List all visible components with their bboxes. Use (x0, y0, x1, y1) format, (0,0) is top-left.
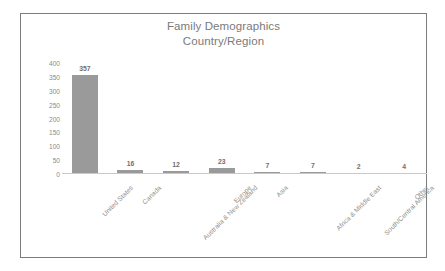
bar-value-label: 357 (79, 65, 90, 73)
bar-value-label: 4 (402, 163, 406, 171)
y-axis-tick: 300 (41, 87, 60, 94)
plot-area: 3571612237724 (62, 63, 427, 174)
bar-slot: 4 (381, 63, 427, 174)
y-axis-tick: 0 (41, 171, 60, 178)
x-axis-category-labels: United StatesCanadaAustralia & New Zeala… (62, 176, 427, 256)
bar-value-label: 16 (127, 160, 135, 168)
chart-subtitle: Country/Region (21, 34, 426, 49)
bar-value-label: 2 (357, 163, 361, 171)
y-axis-tick: 400 (41, 60, 60, 67)
y-axis-tick: 250 (41, 101, 60, 108)
x-axis-category: Asia (271, 176, 284, 194)
x-axis-category-label: Asia (275, 184, 290, 199)
bar-series: 3571612237724 (62, 63, 427, 174)
chart-title: Family Demographics (21, 19, 426, 34)
bar-slot: 357 (62, 63, 108, 174)
bar-value-label: 7 (311, 162, 315, 170)
x-axis-line (62, 173, 427, 174)
y-axis-tick: 100 (41, 143, 60, 150)
bar-value-label: 7 (265, 162, 269, 170)
bar[interactable] (72, 75, 98, 174)
y-axis-tick: 200 (41, 115, 60, 122)
x-axis-category: Canada (134, 176, 157, 194)
y-axis-tick: 350 (41, 73, 60, 80)
y-axis-tick-labels: 400350300250200150100500 (41, 63, 60, 174)
bar-slot: 7 (245, 63, 291, 174)
bar-slot: 2 (336, 63, 382, 174)
chart-frame: Family Demographics Country/Region 40035… (20, 13, 427, 258)
x-axis-category: Europe (226, 176, 248, 194)
x-axis-category-label: Canada (141, 184, 163, 206)
y-axis-tick: 150 (41, 129, 60, 136)
bar-slot: 12 (153, 63, 199, 174)
bar-value-label: 23 (218, 158, 226, 166)
y-axis-tick: 50 (41, 157, 60, 164)
chart-title-block: Family Demographics Country/Region (21, 19, 426, 49)
bar-slot: 23 (199, 63, 245, 174)
bar-slot: 7 (290, 63, 336, 174)
x-axis-category: Other (408, 176, 425, 194)
x-axis-category-label: United States (101, 184, 135, 218)
bar-value-label: 12 (172, 161, 180, 169)
bar-slot: 16 (108, 63, 154, 174)
x-axis-category: United States (89, 176, 129, 194)
